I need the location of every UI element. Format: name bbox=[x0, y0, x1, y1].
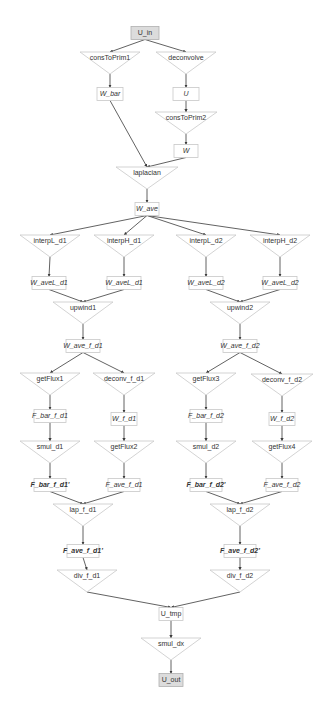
edge-W_ave_f_d1-to-getFlux1 bbox=[50, 353, 83, 374]
operation-node-laplacian[interactable]: laplacian bbox=[116, 167, 178, 189]
node-label: laplacian bbox=[133, 169, 161, 177]
operation-node-getFlux4[interactable]: getFlux4 bbox=[252, 441, 312, 463]
edge-W_aveL_d2b-to-upwind2 bbox=[240, 290, 280, 303]
operation-node-consToPrim2[interactable]: consToPrim2 bbox=[155, 112, 217, 134]
edge-W_bar-to-laplacian bbox=[110, 101, 147, 168]
node-label: interpL_d1 bbox=[33, 237, 66, 245]
node-label: smul_d2 bbox=[193, 443, 220, 451]
data-node-F_ave_f_d1p[interactable]: F_ave_f_d1' bbox=[63, 545, 103, 558]
data-node-W_aveL_d2a[interactable]: W_aveL_d2 bbox=[187, 277, 224, 290]
operation-node-deconv_f_d1[interactable]: deconv_f_d1 bbox=[93, 373, 155, 395]
computation-graph: U_inconsToPrim1deconvolveW_barUconsToPri… bbox=[0, 0, 330, 708]
data-node-W_bar[interactable]: W_bar bbox=[97, 88, 123, 101]
edge-U_in-to-deconvolve bbox=[145, 40, 186, 53]
data-node-W_ave_f_d1[interactable]: W_ave_f_d1 bbox=[63, 340, 102, 353]
data-node-F_bar_f_d2[interactable]: F_bar_f_d2 bbox=[188, 410, 224, 423]
edge-W_ave_f_d2-to-getFlux3 bbox=[206, 353, 240, 374]
edge-F_ave_f_d1p-to-div_f_d1 bbox=[83, 558, 87, 571]
edge-W_ave-to-interpH_d1 bbox=[124, 216, 147, 236]
operation-node-interpL_d1[interactable]: interpL_d1 bbox=[20, 235, 80, 257]
node-label: W_ave bbox=[136, 205, 158, 212]
data-node-F_ave_f_d2[interactable]: F_ave_f_d2 bbox=[264, 479, 301, 492]
operation-node-smul_d1[interactable]: smul_d1 bbox=[20, 441, 80, 463]
operation-node-deconv_f_d2[interactable]: deconv_f_d2 bbox=[251, 374, 313, 396]
node-label: div_f_d2 bbox=[227, 572, 254, 580]
data-node-W_aveL_d1a[interactable]: W_aveL_d1 bbox=[30, 277, 67, 290]
graph-nodes: U_inconsToPrim1deconvolveW_barUconsToPri… bbox=[20, 27, 313, 687]
node-label: W_f_d2 bbox=[270, 415, 294, 422]
operation-node-upwind2[interactable]: upwind2 bbox=[210, 302, 270, 324]
data-node-W_ave_f_d2[interactable]: W_ave_f_d2 bbox=[220, 340, 259, 353]
node-label: smul_d1 bbox=[37, 443, 64, 451]
data-node-F_bar_f_d1[interactable]: F_bar_f_d1 bbox=[32, 410, 68, 423]
node-label: deconvolve bbox=[168, 54, 204, 61]
data-node-F_bar_f_d1p[interactable]: F_bar_f_d1' bbox=[30, 479, 69, 492]
edge-U_in-to-consToPrim1 bbox=[110, 40, 145, 53]
data-node-W_aveL_d2b[interactable]: W_aveL_d2 bbox=[261, 277, 298, 290]
data-node-U_tmp[interactable]: U_tmp bbox=[159, 608, 183, 621]
node-label: upwind1 bbox=[70, 304, 96, 312]
operation-node-consToPrim1[interactable]: consToPrim1 bbox=[80, 52, 140, 74]
operation-node-getFlux3[interactable]: getFlux3 bbox=[176, 373, 236, 395]
node-label: smul_dx bbox=[158, 640, 185, 648]
edge-W-to-laplacian bbox=[147, 158, 186, 168]
operation-node-lap_f_d1[interactable]: lap_f_d1 bbox=[53, 504, 113, 526]
data-node-F_ave_f_d1[interactable]: F_ave_f_d1 bbox=[106, 479, 143, 492]
node-label: F_bar_f_d1' bbox=[30, 481, 69, 488]
data-node-W_f_d2[interactable]: W_f_d2 bbox=[269, 413, 295, 426]
operation-node-lap_f_d2[interactable]: lap_f_d2 bbox=[210, 504, 270, 526]
node-label: W_aveL_d2 bbox=[187, 279, 224, 286]
operation-node-getFlux2[interactable]: getFlux2 bbox=[94, 441, 154, 463]
node-label: getFlux4 bbox=[269, 443, 296, 451]
node-label: U_tmp bbox=[161, 610, 182, 618]
node-label: U_out bbox=[162, 676, 181, 684]
edge-F_ave_f_d1-to-lap_f_d1 bbox=[83, 492, 124, 505]
node-label: U_in bbox=[138, 29, 153, 37]
operation-node-interpH_d2[interactable]: interpH_d2 bbox=[250, 235, 310, 257]
operation-node-deconvolve[interactable]: deconvolve bbox=[156, 52, 216, 74]
data-node-W_f_d1[interactable]: W_f_d1 bbox=[111, 413, 137, 426]
edge-F_bar_f_d1p-to-lap_f_d1 bbox=[50, 492, 83, 505]
edge-W_ave_f_d2-to-deconv_f_d2 bbox=[240, 353, 282, 375]
operation-node-div_f_d2[interactable]: div_f_d2 bbox=[210, 570, 270, 592]
operation-node-interpL_d2[interactable]: interpL_d2 bbox=[176, 235, 236, 257]
edge-W_aveL_d2a-to-upwind2 bbox=[206, 290, 240, 303]
node-label: F_bar_f_d1 bbox=[32, 412, 68, 419]
data-node-W_aveL_d1b[interactable]: W_aveL_d1 bbox=[105, 277, 142, 290]
node-label: getFlux3 bbox=[193, 375, 220, 383]
operation-node-upwind1[interactable]: upwind1 bbox=[53, 302, 113, 324]
operation-node-smul_d2[interactable]: smul_d2 bbox=[176, 441, 236, 463]
node-label: F_ave_f_d1' bbox=[63, 547, 103, 554]
operation-node-smul_dx[interactable]: smul_dx bbox=[141, 638, 201, 660]
node-label: F_bar_f_d2 bbox=[188, 412, 224, 419]
data-node-F_ave_f_d2p[interactable]: F_ave_f_d2' bbox=[220, 545, 260, 558]
data-node-W_ave[interactable]: W_ave bbox=[135, 203, 159, 216]
data-node-U_in[interactable]: U_in bbox=[131, 27, 159, 40]
node-label: W_f_d1 bbox=[112, 415, 136, 422]
operation-node-getFlux1[interactable]: getFlux1 bbox=[20, 373, 80, 395]
data-node-U[interactable]: U bbox=[173, 88, 199, 101]
node-label: upwind2 bbox=[227, 304, 253, 312]
node-label: getFlux2 bbox=[111, 443, 138, 451]
edge-interpL_d1-to-W_aveL_d1a bbox=[49, 257, 50, 277]
data-node-U_out[interactable]: U_out bbox=[159, 674, 183, 687]
node-label: consToPrim1 bbox=[90, 54, 131, 61]
node-label: F_ave_f_d2 bbox=[264, 481, 301, 488]
edge-div_f_d2-to-U_tmp bbox=[171, 592, 240, 608]
node-label: W_aveL_d1 bbox=[30, 279, 67, 286]
operation-node-div_f_d1[interactable]: div_f_d1 bbox=[57, 570, 117, 592]
data-node-F_bar_f_d2p[interactable]: F_bar_f_d2' bbox=[186, 479, 225, 492]
node-label: interpH_d1 bbox=[107, 237, 141, 245]
operation-node-interpH_d1[interactable]: interpH_d1 bbox=[94, 235, 154, 257]
node-label: div_f_d1 bbox=[74, 572, 101, 580]
node-label: W_ave_f_d1 bbox=[63, 342, 102, 349]
node-label: F_ave_f_d1 bbox=[106, 481, 143, 488]
node-label: deconv_f_d1 bbox=[104, 375, 144, 383]
node-label: F_ave_f_d2' bbox=[220, 547, 260, 554]
edge-W_aveL_d1a-to-upwind1 bbox=[49, 290, 83, 303]
node-label: W_aveL_d2 bbox=[261, 279, 298, 286]
node-label: interpH_d2 bbox=[263, 237, 297, 245]
edge-W_ave-to-interpL_d2 bbox=[147, 216, 206, 236]
edge-W_ave-to-interpL_d1 bbox=[50, 216, 147, 236]
data-node-W[interactable]: W bbox=[174, 145, 198, 158]
